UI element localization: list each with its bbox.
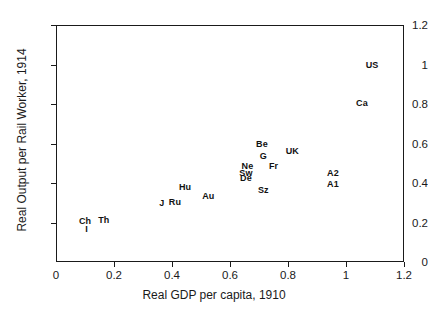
y-axis-tick bbox=[51, 144, 56, 145]
data-point-de: De bbox=[240, 173, 252, 183]
data-point-sz: Sz bbox=[258, 185, 269, 195]
y-axis-tick bbox=[51, 223, 56, 224]
data-point-j: J bbox=[159, 198, 164, 208]
x-axis-tick bbox=[172, 262, 173, 267]
scatter-plot-figure: Real Output per Rail Worker, 1914 Real G… bbox=[0, 0, 428, 314]
data-point-hu: Hu bbox=[179, 182, 191, 192]
data-point-i: I bbox=[85, 224, 88, 234]
data-point-a1: A1 bbox=[327, 179, 339, 189]
y-axis-tick-label: 0 bbox=[384, 256, 428, 268]
plot-area bbox=[56, 25, 404, 262]
y-axis-tick bbox=[51, 104, 56, 105]
data-point-ca: Ca bbox=[356, 98, 368, 108]
data-point-be: Be bbox=[256, 139, 268, 149]
y-axis-tick bbox=[51, 25, 56, 26]
y-axis-tick bbox=[51, 183, 56, 184]
data-point-ru: Ru bbox=[169, 197, 181, 207]
data-point-uk: UK bbox=[286, 146, 299, 156]
x-axis-tick-label: 1 bbox=[322, 269, 370, 281]
y-axis-tick-label: 0.6 bbox=[384, 138, 428, 150]
data-point-a2: A2 bbox=[327, 168, 339, 178]
x-axis-title: Real GDP per capita, 1910 bbox=[0, 288, 428, 302]
y-axis-tick bbox=[51, 65, 56, 66]
x-axis-tick bbox=[230, 262, 231, 267]
x-axis-tick-label: 0.2 bbox=[90, 269, 138, 281]
y-axis-tick-label: 1.2 bbox=[384, 19, 428, 31]
y-axis-tick-label: 0.8 bbox=[384, 98, 428, 110]
x-axis-tick-label: 0.4 bbox=[148, 269, 196, 281]
x-axis-tick bbox=[288, 262, 289, 267]
data-point-fr: Fr bbox=[269, 161, 278, 171]
x-axis-tick bbox=[114, 262, 115, 267]
y-axis-tick-label: 1 bbox=[384, 59, 428, 71]
data-point-th: Th bbox=[98, 215, 109, 225]
y-axis-title: Real Output per Rail Worker, 1914 bbox=[15, 25, 29, 255]
data-point-g: G bbox=[260, 151, 267, 161]
data-point-au: Au bbox=[202, 191, 214, 201]
x-axis-tick-label: 0.6 bbox=[206, 269, 254, 281]
y-axis-tick-label: 0.4 bbox=[384, 177, 428, 189]
data-point-us: US bbox=[366, 60, 379, 70]
x-axis-tick-label: 1.2 bbox=[380, 269, 428, 281]
x-axis-tick-label: 0.8 bbox=[264, 269, 312, 281]
x-axis-tick bbox=[346, 262, 347, 267]
x-axis-tick bbox=[404, 262, 405, 267]
x-axis-tick-label: 0 bbox=[32, 269, 80, 281]
y-axis-tick-label: 0.2 bbox=[384, 217, 428, 229]
